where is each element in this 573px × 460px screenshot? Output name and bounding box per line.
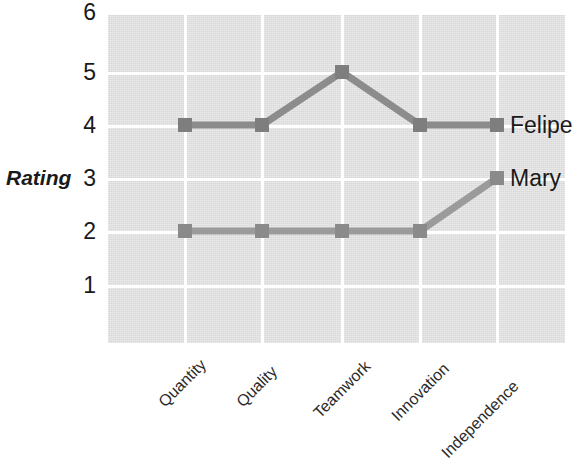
legend-label-mary: Mary (510, 165, 561, 192)
gridline-x-independence (496, 12, 499, 343)
x-label-quality: Quality (233, 363, 281, 411)
gridline-x-quantity (184, 12, 187, 343)
x-label-quantity: Quantity (155, 356, 210, 411)
gridline-x-innovation (419, 12, 422, 343)
gridline-x-quality (261, 12, 264, 343)
y-tick-1: 1 (0, 272, 96, 299)
y-tick-5: 5 (0, 59, 96, 86)
plot-area (108, 12, 565, 343)
x-label-teamwork: Teamwork (310, 357, 374, 421)
y-tick-6: 6 (0, 0, 96, 26)
y-tick-2: 2 (0, 218, 96, 245)
gridline-x-teamwork (341, 12, 344, 343)
y-axis: 6 5 4 3 2 1 (0, 0, 100, 460)
legend-label-felipe: Felipe (510, 112, 573, 139)
x-label-independence: Independence (438, 377, 522, 460)
x-label-innovation: Innovation (388, 360, 453, 425)
y-tick-4: 4 (0, 112, 96, 139)
y-axis-title: Rating (6, 166, 98, 190)
